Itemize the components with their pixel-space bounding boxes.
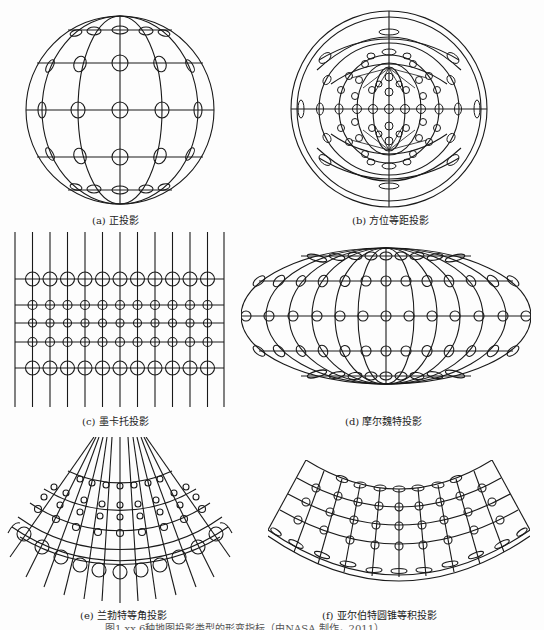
panel-label-c: (c) 墨卡托投影: [82, 413, 149, 428]
panel-albers-equal-area-conic: [268, 460, 530, 584]
panel-label-b: (b) 方位等距投影: [352, 212, 429, 227]
panel-orthographic: [20, 10, 220, 210]
albers-equal-area-conic-diagram: [268, 460, 530, 584]
panel-label-a: (a) 正投影: [92, 212, 139, 227]
panel-label-d: (d) 摩尔魏特投影: [345, 413, 422, 428]
panel-azimuthal-equidistant: [289, 8, 489, 210]
figure-caption: 图1.xx 6种地图投影类型的形变指标（由NASA 制作，2011）: [105, 622, 384, 630]
panel-mercator: [12, 232, 227, 407]
mollweide-projection-diagram: [241, 246, 531, 386]
panel-label-f: (f) 亚尔伯特圆锥等积投影: [322, 607, 437, 622]
lambert-conformal-conic-diagram: [4, 437, 236, 603]
panel-lambert-conformal-conic: [4, 437, 236, 603]
mercator-projection-diagram: [12, 232, 227, 407]
panel-mollweide: [241, 246, 531, 386]
orthographic-projection-diagram: [20, 10, 220, 210]
panel-label-e: (e) 兰勃特等角投影: [80, 607, 167, 622]
azimuthal-equidistant-diagram: [289, 8, 489, 210]
